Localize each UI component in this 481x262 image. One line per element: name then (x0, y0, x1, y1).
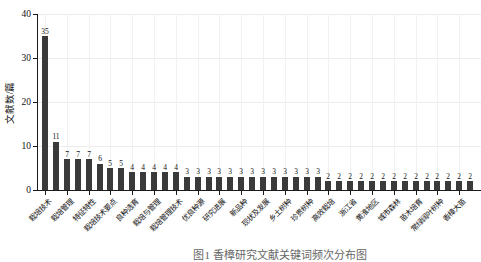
x-tick (45, 191, 46, 195)
bar (434, 181, 440, 190)
bar (293, 177, 299, 190)
x-tick-label: 城市森林 (376, 197, 402, 223)
x-tick (307, 191, 308, 195)
x-tick-label: 研究进展 (202, 197, 228, 223)
h-gridline (37, 146, 481, 147)
bar (445, 181, 451, 190)
x-tick (437, 191, 438, 195)
y-axis-line (37, 14, 38, 191)
bar (456, 181, 462, 190)
x-tick (176, 191, 177, 195)
h-gridline (37, 102, 481, 103)
x-tick (394, 191, 395, 195)
y-tick (33, 58, 37, 59)
x-tick-label: 乡土树种 (267, 197, 293, 223)
v-gridline (394, 14, 395, 190)
bar (358, 181, 364, 190)
v-gridline (372, 14, 373, 190)
v-gridline (263, 14, 264, 190)
y-tick-label: 20 (7, 97, 31, 107)
y-tick-label: 10 (7, 141, 31, 151)
x-tick (372, 191, 373, 195)
x-tick-label: 优良种源 (180, 197, 206, 223)
bar (64, 159, 70, 190)
bar (369, 181, 375, 190)
x-tick (459, 191, 460, 195)
v-gridline (350, 14, 351, 190)
x-tick-label: 栽培管理 (49, 197, 75, 223)
h-gridline (37, 58, 481, 59)
y-tick (33, 102, 37, 103)
bar (140, 172, 146, 190)
bar (282, 177, 288, 190)
bar (86, 159, 92, 190)
x-axis-line (37, 190, 481, 191)
y-tick-label: 30 (7, 53, 31, 63)
bar (325, 181, 331, 190)
x-tick (89, 191, 90, 195)
bar (424, 181, 430, 190)
figure-caption-clipped: 图1 香樟研究文献关键词频次分布图 (170, 246, 390, 262)
bar-value-label: 2 (460, 172, 480, 181)
bar (227, 177, 233, 190)
x-tick (67, 191, 68, 195)
x-tick-label: 黄淮地区 (354, 197, 380, 223)
v-gridline (307, 14, 308, 190)
v-gridline (285, 14, 286, 190)
x-tick (263, 191, 264, 195)
bar (402, 181, 408, 190)
bar-value-label: 11 (46, 132, 66, 141)
x-tick (416, 191, 417, 195)
bar (216, 177, 222, 190)
v-gridline (241, 14, 242, 190)
bar (336, 181, 342, 190)
bar (42, 36, 48, 190)
bar-value-label: 35 (35, 27, 55, 36)
bar (347, 181, 353, 190)
bar (304, 177, 310, 190)
x-tick (198, 191, 199, 195)
bar (97, 164, 103, 190)
bar (184, 177, 190, 190)
x-tick (328, 191, 329, 195)
h-gridline (37, 14, 481, 15)
x-tick (241, 191, 242, 195)
v-gridline (459, 14, 460, 190)
bar (467, 181, 473, 190)
bar (129, 172, 135, 190)
bar (380, 181, 386, 190)
x-tick (285, 191, 286, 195)
v-gridline (416, 14, 417, 190)
x-tick-label: 栽培技术 (27, 197, 53, 223)
bar (238, 177, 244, 190)
x-tick-label: 香樟大苗 (441, 197, 467, 223)
y-tick (33, 14, 37, 15)
bar (413, 181, 419, 190)
bar (151, 172, 157, 190)
bar (260, 177, 266, 190)
x-tick (110, 191, 111, 195)
x-tick-label: 高效栽培 (311, 197, 337, 223)
x-tick (219, 191, 220, 195)
v-gridline (198, 14, 199, 190)
bar (271, 177, 277, 190)
y-tick (33, 190, 37, 191)
x-tick (132, 191, 133, 195)
bar (75, 159, 81, 190)
x-tick (350, 191, 351, 195)
bar (162, 172, 168, 190)
bar (206, 177, 212, 190)
x-tick-label: 珍贵树种 (289, 197, 315, 223)
y-tick (33, 146, 37, 147)
y-tick-label: 0 (7, 185, 31, 195)
bar (195, 177, 201, 190)
bar (391, 181, 397, 190)
y-tick-label: 40 (7, 9, 31, 19)
v-gridline (328, 14, 329, 190)
x-tick (154, 191, 155, 195)
v-gridline (437, 14, 438, 190)
bar (107, 168, 113, 190)
v-gridline (219, 14, 220, 190)
